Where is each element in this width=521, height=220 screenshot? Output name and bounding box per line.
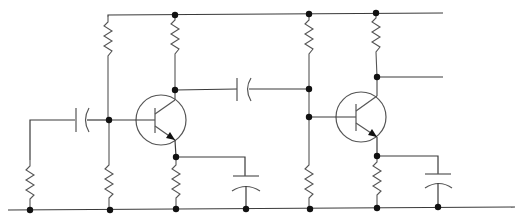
stage1-collector-resistor	[171, 15, 179, 90]
transistor-q1-npn	[109, 90, 186, 157]
amplifier-schematic	[0, 0, 521, 220]
coupling-capacitor	[237, 78, 251, 101]
stage2-bias-top-resistor	[305, 14, 313, 117]
stage2-emitter-bypass-capacitor	[377, 156, 452, 207]
stage1-bias-top-resistor	[104, 17, 112, 120]
supply-top-rail	[108, 13, 443, 17]
stage1-bias-bottom-resistor	[105, 120, 113, 210]
stage1-emitter-bypass-capacitor	[176, 157, 260, 209]
stage2-collector-resistor	[372, 13, 380, 77]
stage2-emitter-resistor	[373, 156, 381, 208]
coupling-wire	[175, 89, 309, 90]
input-resistor	[26, 160, 34, 210]
stage2-bias-bottom-resistor	[305, 117, 313, 209]
stage1-emitter-resistor	[172, 157, 180, 209]
transistor-q2-npn	[309, 77, 386, 156]
input-wire	[30, 120, 109, 160]
